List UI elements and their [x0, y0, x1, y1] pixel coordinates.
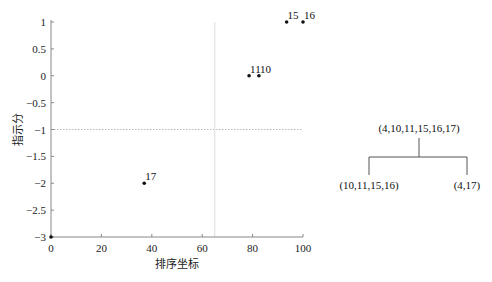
y-tick-label: −2 [34, 177, 46, 189]
data-point-label: 17 [145, 170, 157, 182]
x-tick-label: 20 [96, 242, 108, 254]
x-axis-label: 排序坐标 [155, 257, 199, 270]
data-point [49, 235, 53, 239]
y-tick-label: −1 [34, 124, 46, 136]
x-tick-label: 60 [197, 242, 209, 254]
figure: 10.50−0.5−1−1.5−2−2.5−3020406080100排序坐标指… [0, 0, 492, 282]
data-point-label: 15 [288, 9, 300, 21]
tree-leaf-label: (4,17) [454, 179, 481, 192]
x-tick-label: 80 [247, 242, 259, 254]
y-tick-label: 1 [41, 16, 47, 28]
x-tick-label: 0 [48, 242, 54, 254]
data-point-label: 16 [304, 9, 316, 21]
y-tick-label: −1.5 [26, 150, 46, 162]
y-axis-label: 指示分 [11, 113, 24, 146]
x-tick-label: 100 [295, 242, 312, 254]
tree-leaf-label: (10,11,15,16) [339, 179, 399, 192]
y-tick-label: −3 [34, 231, 46, 243]
y-tick-label: −2.5 [26, 204, 46, 216]
y-tick-label: 0.5 [32, 43, 46, 55]
tree-root-label: (4,10,11,15,16,17) [378, 122, 460, 135]
y-tick-label: 0 [41, 70, 47, 82]
division-tree: (4,10,11,15,16,17)(10,11,15,16)(4,17) [339, 122, 480, 192]
scatter-plot: 10.50−0.5−1−1.5−2−2.5−3020406080100排序坐标指… [11, 9, 316, 270]
x-tick-label: 40 [146, 242, 158, 254]
data-point-label: 10 [260, 63, 272, 75]
y-tick-label: −0.5 [26, 97, 46, 109]
